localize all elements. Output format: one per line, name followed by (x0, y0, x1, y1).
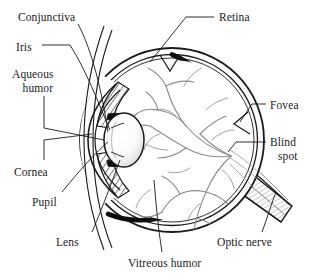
label-blind-spot-line1: Blind (270, 136, 296, 148)
label-aqueous-humor-line2: humor (12, 82, 54, 96)
label-aqueous-humor: Aqueous humor (12, 68, 54, 95)
lens-body (104, 113, 144, 167)
label-aqueous-humor-line1: Aqueous (12, 68, 54, 80)
label-cornea: Cornea (14, 166, 48, 180)
label-pupil: Pupil (32, 196, 57, 210)
eye-anatomy-diagram: Conjunctiva Iris Aqueous humor Cornea Pu… (0, 0, 314, 280)
label-blind-spot: Blind spot (270, 136, 298, 163)
label-blind-spot-line2: spot (270, 150, 298, 164)
label-optic-nerve: Optic nerve (217, 236, 272, 250)
label-conjunctiva: Conjunctiva (18, 11, 75, 25)
label-iris: Iris (16, 41, 32, 55)
label-vitreous-humor: Vitreous humor (128, 257, 201, 271)
label-retina: Retina (219, 11, 250, 25)
label-fovea: Fovea (270, 99, 299, 113)
label-lens: Lens (56, 236, 79, 250)
